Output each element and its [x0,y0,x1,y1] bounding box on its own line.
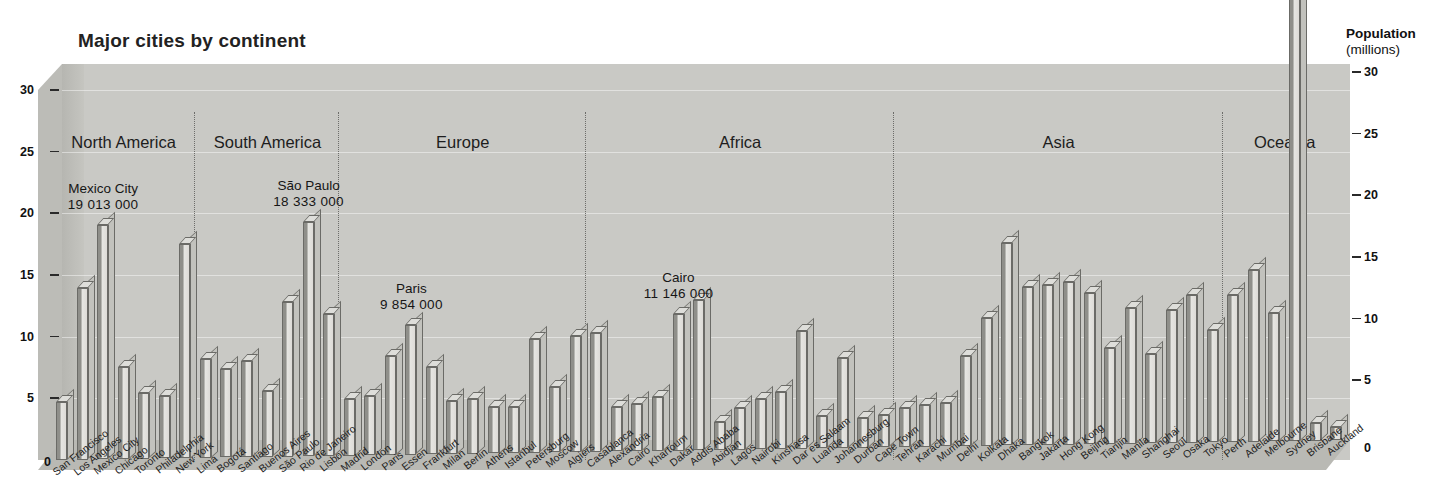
bar[interactable] [220,369,231,458]
bar-face [241,361,252,457]
bar-side [581,323,588,452]
bar[interactable] [467,399,478,453]
bar-face [1145,354,1156,443]
y-tick-left: 10 [4,330,34,344]
bar[interactable] [1022,287,1033,445]
y-tick-right: 15 [1364,250,1394,264]
bar-side [1053,271,1060,445]
bar-face [385,356,396,455]
bar[interactable] [1001,243,1012,445]
bar-face [570,336,581,452]
page-title: Major cities by continent [78,30,306,52]
bar-side [540,326,547,453]
origin-label-right: 0 [1364,441,1371,455]
bar-face [179,244,190,459]
bar-face [282,302,293,456]
bar[interactable] [1207,330,1218,442]
bar-face [755,399,766,450]
bar[interactable] [179,244,190,459]
bar[interactable] [693,300,704,450]
bar[interactable] [77,288,88,459]
bar-side [190,230,197,458]
bar[interactable] [97,225,108,459]
y-tickmark-left [50,336,59,338]
y-tick-right: 5 [1364,373,1394,387]
bar[interactable] [385,356,396,455]
bar[interactable] [529,339,540,452]
bar-callout: São Paulo18 333 000 [273,178,344,210]
bar[interactable] [1186,295,1197,443]
bar[interactable] [1248,270,1259,441]
y-tickmark-right [1352,194,1361,196]
bar[interactable] [1063,282,1074,445]
bar[interactable] [1084,293,1095,445]
y-tick-right: 25 [1364,127,1394,141]
bar-side [231,355,238,457]
bar[interactable] [364,396,375,455]
bar-side [704,286,711,450]
bar-face [220,369,231,458]
bar[interactable] [303,222,314,456]
bar[interactable] [56,402,67,460]
y-tickmark-left [50,274,59,276]
axis-caption-line2: (millions) [1346,42,1438,58]
bar[interactable] [405,325,416,454]
bar[interactable] [488,407,499,454]
bar-callout: Paris9 854 000 [380,281,443,313]
bar[interactable] [981,318,992,446]
bar-face [1268,313,1279,441]
bar-face [1227,295,1238,442]
bar-callout: Mexico City19 013 000 [68,181,139,213]
bar[interactable] [426,367,437,455]
bar[interactable] [241,361,252,457]
bar-side [1115,334,1122,443]
bar[interactable] [570,336,581,452]
bar-face [590,333,601,451]
bar-face [97,225,108,459]
continent-label: North America [71,133,176,152]
bar-side [971,343,978,446]
bar[interactable] [1145,354,1156,443]
bar[interactable] [1289,0,1300,441]
bar-face [529,339,540,452]
bar-side [1136,295,1143,444]
bar[interactable] [1042,285,1053,445]
chart-root: Major cities by continent Population (mi… [0,0,1444,497]
bar-face [1001,243,1012,445]
callout-population-value: 19 013 000 [68,197,139,213]
bar-side [1300,0,1307,441]
bar[interactable] [837,358,848,448]
bar[interactable] [1166,310,1177,443]
bar-side [807,318,814,448]
bar[interactable] [755,399,766,450]
bar-side [601,320,608,452]
bar[interactable] [652,397,663,451]
bar-face [1248,270,1259,441]
continent-label: Europe [436,133,489,152]
bar[interactable] [282,302,293,456]
bar[interactable] [1227,295,1238,442]
bar-face [1289,0,1300,441]
y-tick-left: 20 [4,206,34,220]
y-tickmark-right [1352,71,1361,73]
bar-side [437,353,444,454]
bar-side [252,348,259,457]
bar-side [108,212,115,460]
y-tickmark-left [50,89,59,91]
bar-side [1197,281,1204,442]
continent-label: Asia [1043,133,1075,152]
bar-side [1156,341,1163,443]
bar-face [1022,287,1033,445]
bar-side [1012,230,1019,446]
y-tick-right: 10 [1364,312,1394,326]
bar-side [314,209,321,457]
bar[interactable] [1125,308,1136,444]
bar-face [303,222,314,456]
y-tickmark-left [50,212,59,214]
y-tick-right: 20 [1364,188,1394,202]
bar[interactable] [1268,313,1279,441]
bar[interactable] [590,333,601,451]
bar-side [1033,274,1040,445]
gridline [62,90,1350,91]
callout-population-value: 18 333 000 [273,194,344,210]
